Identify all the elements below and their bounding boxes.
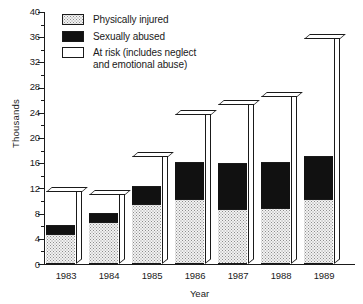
segment-physically-injured-1984 (89, 222, 118, 263)
bar-side-face (248, 101, 254, 264)
bar-top-face (218, 100, 260, 105)
legend-label: At risk (includes neglect and emotional … (93, 47, 196, 70)
segment-physically-injured-1989 (304, 199, 333, 263)
segment-at-risk-1989 (304, 38, 333, 156)
bar-1986 (175, 115, 204, 264)
bar-front-face (218, 105, 247, 264)
legend-item-sexually-abused: Sexually abused (62, 31, 196, 43)
bar-1987 (218, 105, 247, 264)
x-tick-label-1987: 1987 (217, 270, 259, 281)
segment-at-risk-1986 (175, 114, 204, 161)
y-tick-label-40: 40 (6, 7, 40, 17)
bar-top-face (304, 34, 346, 39)
y-axis-title: Thousands (10, 81, 21, 167)
bar-front-face (132, 157, 161, 264)
bar-top-face (89, 190, 131, 195)
bar-1984 (89, 195, 118, 264)
y-tick-label-0: 0 (6, 260, 40, 270)
segment-sexually-abused-1985 (132, 186, 161, 205)
legend: Physically injured Sexually abused At ri… (62, 14, 196, 75)
segment-at-risk-1985 (132, 156, 161, 186)
bar-side-face (205, 111, 211, 264)
x-tick-label-1983: 1983 (45, 270, 87, 281)
segment-at-risk-1987 (218, 104, 247, 163)
at-risk-swatch (62, 47, 84, 58)
bar-front-face (261, 97, 290, 264)
legend-item-at-risk: At risk (includes neglect and emotional … (62, 47, 196, 70)
segment-sexually-abused-1986 (175, 162, 204, 199)
y-tick-label-12: 12 (6, 184, 40, 194)
stacked-bar-chart: 40 36 32 28 24 20 16 12 8 4 0 Thousands … (0, 0, 363, 304)
segment-physically-injured-1988 (261, 208, 290, 263)
segment-physically-injured-1985 (132, 204, 161, 263)
segment-sexually-abused-1988 (261, 162, 290, 208)
bar-1983 (46, 192, 75, 264)
bar-side-face (334, 34, 340, 264)
bar-side-face (162, 152, 168, 264)
segment-at-risk-1988 (261, 96, 290, 162)
legend-label: Sexually abused (93, 31, 165, 43)
segment-physically-injured-1986 (175, 199, 204, 263)
legend-label: Physically injured (93, 14, 168, 26)
segment-physically-injured-1987 (218, 209, 247, 263)
bar-side-face (119, 190, 125, 264)
bar-top-face (132, 152, 174, 157)
bar-top-face (261, 92, 303, 97)
sexually-abused-swatch (62, 31, 84, 42)
x-tick-label-1986: 1986 (174, 270, 216, 281)
y-tick-label-8: 8 (6, 209, 40, 219)
bar-1988 (261, 97, 290, 264)
y-tick-label-36: 36 (6, 32, 40, 42)
x-tick-label-1984: 1984 (88, 270, 130, 281)
bar-front-face (46, 192, 75, 264)
bar-1985 (132, 157, 161, 264)
bar-front-face (89, 195, 118, 264)
y-tick-label-32: 32 (6, 57, 40, 67)
y-tick-major (38, 264, 45, 265)
bar-top-face (175, 110, 217, 115)
x-tick-label-1989: 1989 (303, 270, 345, 281)
bar-top-face (46, 187, 88, 192)
segment-sexually-abused-1983 (46, 225, 75, 234)
bar-front-face (175, 115, 204, 264)
bar-1989 (304, 39, 333, 264)
x-axis-line (44, 264, 355, 265)
segment-sexually-abused-1984 (89, 213, 118, 222)
y-tick-label-4: 4 (6, 234, 40, 244)
legend-item-physically-injured: Physically injured (62, 14, 196, 26)
bar-front-face (304, 39, 333, 264)
physically-injured-swatch (62, 14, 84, 25)
segment-at-risk-1983 (46, 191, 75, 226)
x-tick-label-1988: 1988 (260, 270, 302, 281)
bar-side-face (76, 187, 82, 264)
segment-sexually-abused-1989 (304, 156, 333, 199)
x-tick-label-1985: 1985 (131, 270, 173, 281)
segment-sexually-abused-1987 (218, 163, 247, 210)
segment-at-risk-1984 (89, 194, 118, 213)
bar-side-face (291, 92, 297, 264)
segment-physically-injured-1983 (46, 234, 75, 263)
x-axis-title: Year (44, 288, 355, 299)
